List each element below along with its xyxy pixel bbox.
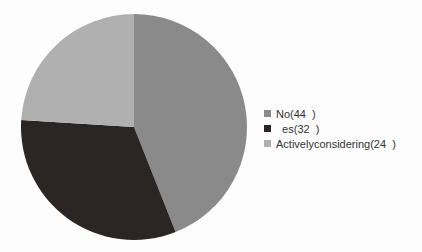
legend-label-yes: es(32 ) xyxy=(276,123,319,135)
legend-item-no: No(44 ) xyxy=(264,106,396,121)
legend-label-actively-considering: Activelyconsidering(24 ) xyxy=(276,138,396,150)
legend-swatch-no xyxy=(264,110,271,117)
pie-slice-actively-considering xyxy=(21,14,134,127)
legend: No(44 ) es(32 ) Activelyconsidering(24 ) xyxy=(264,106,396,151)
legend-label-no: No(44 ) xyxy=(276,108,316,120)
chart-canvas: No(44 ) es(32 ) Activelyconsidering(24 ) xyxy=(0,0,422,252)
legend-item-yes: es(32 ) xyxy=(264,121,396,136)
legend-swatch-yes xyxy=(264,125,271,132)
legend-swatch-actively-considering xyxy=(264,140,271,147)
legend-item-actively-considering: Activelyconsidering(24 ) xyxy=(264,136,396,151)
pie-chart xyxy=(0,0,270,252)
